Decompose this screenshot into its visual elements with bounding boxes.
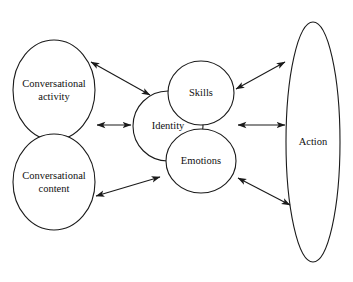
connector-activity-identity[interactable]: [91, 62, 150, 95]
node-shapes-group: [13, 22, 340, 262]
connector-emotions-action[interactable]: [238, 178, 290, 205]
diagram-canvas: Conversational activityConversational co…: [0, 0, 353, 282]
node-shape-skills[interactable]: [168, 61, 234, 125]
node-shape-action[interactable]: [286, 22, 340, 262]
connector-content-emotions[interactable]: [96, 177, 160, 196]
node-shape-conversational-activity[interactable]: [13, 40, 95, 140]
connector-skills-action[interactable]: [236, 62, 285, 89]
diagram-graphic: [0, 0, 353, 282]
node-shape-conversational-content[interactable]: [13, 134, 95, 230]
node-shape-emotions[interactable]: [166, 129, 236, 193]
